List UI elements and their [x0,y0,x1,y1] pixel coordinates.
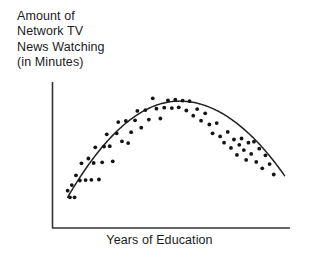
data-point [166,98,170,102]
data-point [264,153,268,157]
data-point [126,141,130,145]
data-point [97,178,101,182]
data-point [86,157,90,161]
data-point [222,141,226,145]
data-point [242,148,246,152]
data-point [116,120,120,124]
data-point [111,159,115,163]
data-point [102,145,106,149]
data-point [188,99,192,103]
data-point [237,143,241,147]
data-point [68,195,72,199]
data-point [133,118,137,122]
data-point [218,135,222,139]
data-point [80,161,84,165]
chart-figure: Amount of Network TV News Watching (in M… [0,0,319,265]
data-point [155,107,159,111]
data-point [84,178,88,182]
data-point [66,189,70,193]
data-point [78,179,82,183]
data-point [74,173,78,177]
data-point [254,160,258,164]
plot-axes [52,82,290,228]
data-point [177,105,181,109]
data-point [124,119,128,123]
data-point [89,178,93,182]
data-point [108,144,112,148]
data-point [170,106,174,110]
data-point [184,109,188,113]
data-points [66,96,276,199]
data-point [199,119,203,123]
data-point [260,166,264,170]
data-point [249,152,253,156]
data-point [195,107,199,111]
data-point [147,118,151,122]
fit-curve-path [68,101,285,197]
data-point [211,131,215,135]
data-point [139,126,143,130]
data-point [173,98,177,102]
data-point [135,109,139,113]
data-point [158,117,162,121]
data-point [105,132,109,136]
data-point [257,147,261,151]
data-point [272,173,276,177]
data-point [181,99,185,103]
data-point [162,106,166,110]
data-point [203,111,207,115]
x-axis-label: Years of Education [0,233,319,248]
data-point [129,130,133,134]
data-point [191,114,195,118]
data-point [244,158,248,162]
data-point [151,96,155,100]
data-point [92,161,96,165]
data-point [100,160,104,164]
data-point [215,121,219,125]
data-point [115,131,119,135]
trend-curve [68,101,285,197]
data-point [226,130,230,134]
data-point [268,162,272,166]
data-point [229,146,233,150]
data-point [144,108,148,112]
data-point [73,195,77,199]
data-point [252,140,256,144]
data-point [232,138,236,142]
data-point [120,139,124,143]
data-point [70,183,74,187]
y-axis-label: Amount of Network TV News Watching (in M… [17,9,105,71]
data-point [247,141,251,145]
data-point [240,137,244,141]
data-point [93,145,97,149]
data-point [207,123,211,127]
data-point [235,153,239,157]
